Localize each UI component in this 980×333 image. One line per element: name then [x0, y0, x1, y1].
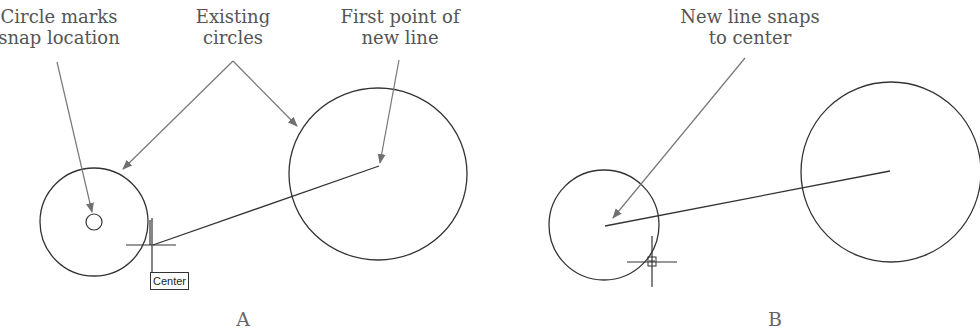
callout-line: new line [320, 27, 480, 48]
osnap-tooltip: Center [150, 272, 189, 290]
diagram-canvas [0, 0, 980, 333]
leader-existing-right [233, 61, 297, 126]
panel-label-b: B [760, 308, 790, 330]
leader-first-point [380, 60, 399, 163]
callout-snap-location: Circle marks snap location [0, 6, 134, 48]
callout-line: to center [665, 27, 835, 48]
callout-snaps-to-center: New line snaps to center [665, 6, 835, 48]
large-circle-b [801, 82, 980, 262]
callout-line: circles [178, 27, 288, 48]
callout-line: snap location [0, 27, 134, 48]
new-line-b [605, 171, 890, 226]
large-circle-a [289, 88, 467, 260]
leader-snaps-to-center [613, 58, 745, 218]
snap-marker-icon [86, 214, 102, 230]
callout-line: New line snaps [665, 6, 835, 27]
panel-label-a: A [228, 308, 258, 330]
callout-line: Circle marks [0, 6, 134, 27]
crosshair-cursor-icon [126, 218, 176, 272]
small-circle-a [40, 168, 148, 276]
new-line-a [153, 166, 379, 245]
callout-first-point: First point of new line [320, 6, 480, 48]
panel-a [40, 60, 467, 276]
leader-snap-location [57, 62, 92, 212]
callout-line: Existing [178, 6, 288, 27]
callout-existing-circles: Existing circles [178, 6, 288, 48]
leader-existing-left [123, 61, 233, 169]
callout-line: First point of [320, 6, 480, 27]
panel-b [549, 58, 980, 287]
crosshair-cursor-icon [627, 236, 677, 287]
small-circle-b [549, 170, 659, 280]
